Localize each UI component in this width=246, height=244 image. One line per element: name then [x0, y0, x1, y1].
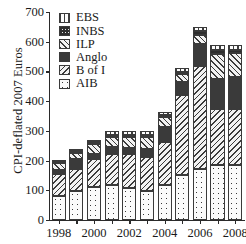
bar-segment-aib: [69, 191, 83, 220]
bar-segment-anglo: [122, 148, 136, 155]
bar-segment-b-of-i: [69, 169, 83, 192]
bar-segment-inbs: [105, 135, 119, 137]
x-tick-label: 2002: [117, 227, 142, 240]
y-tick-label: 300: [25, 125, 44, 138]
bar-segment-aib: [210, 165, 224, 220]
bar-2007: [210, 12, 224, 220]
x-tick: [235, 220, 236, 224]
x-tick-label: 2000: [82, 227, 107, 240]
bar-segment-b-of-i: [210, 109, 224, 166]
y-tick: [46, 131, 50, 132]
bar-segment-anglo: [228, 77, 242, 108]
legend-swatch-solid-dark: [59, 52, 70, 62]
x-tick-label: 2006: [187, 227, 212, 240]
bar-segment-anglo: [69, 159, 83, 169]
bar-2005: [175, 12, 189, 220]
y-tick: [46, 161, 50, 162]
bar-segment-ebs: [52, 160, 66, 162]
bar-segment-anglo: [193, 44, 207, 66]
legend-item-inbs: INBS: [59, 24, 107, 37]
bar-segment-ebs: [69, 149, 83, 151]
bar-segment-anglo: [140, 149, 154, 157]
legend-item-aib: AIB: [59, 77, 107, 90]
bar-segment-ilp: [122, 137, 136, 147]
bar-segment-aib: [87, 187, 101, 220]
x-tick: [129, 220, 130, 224]
y-tick-label: 400: [25, 95, 44, 108]
bar-segment-aib: [140, 191, 154, 220]
bar-segment-ilp: [52, 163, 66, 170]
bar-segment-inbs: [193, 31, 207, 35]
legend-label: INBS: [76, 25, 104, 38]
bar-segment-b-of-i: [105, 154, 119, 185]
bar-segment-ebs: [158, 112, 172, 115]
bar-segment-ilp: [228, 53, 242, 77]
x-tick-label: 2008: [223, 227, 246, 240]
bar-segment-aib: [193, 169, 207, 220]
x-tick: [112, 220, 113, 224]
legend-label: EBS: [76, 11, 99, 24]
y-tick: [46, 12, 50, 13]
legend-swatch-diagonal-hatch-left: [59, 65, 70, 75]
bar-segment-ilp: [87, 144, 101, 154]
x-tick: [59, 220, 60, 224]
x-tick: [218, 220, 219, 224]
bar-segment-ebs: [122, 131, 136, 135]
legend-item-b-of-i: B of I: [59, 64, 107, 77]
y-tick-label: 700: [25, 6, 44, 19]
bar-segment-b-of-i: [122, 154, 136, 188]
bar-segment-ebs: [175, 68, 189, 72]
x-tick: [182, 220, 183, 224]
legend-swatch-checker: [59, 26, 70, 36]
bar-segment-anglo: [105, 147, 119, 154]
y-tick-label: 600: [25, 35, 44, 48]
bar-segment-ilp: [193, 35, 207, 45]
bar-segment-inbs: [228, 50, 242, 53]
x-tick-label: 2004: [152, 227, 177, 240]
bar-segment-aib: [175, 175, 189, 220]
legend-label: B of I: [76, 64, 105, 77]
legend-label: Anglo: [76, 51, 107, 64]
bar-segment-anglo: [158, 127, 172, 142]
y-tick: [46, 42, 50, 43]
y-tick: [46, 101, 50, 102]
bar-segment-aib: [52, 196, 66, 220]
legend-swatch-diagonal-hatch-right: [59, 39, 70, 49]
bar-segment-b-of-i: [87, 159, 101, 187]
bar-2006: [193, 12, 207, 220]
bar-2004: [158, 12, 172, 220]
bar-segment-ilp: [175, 74, 189, 82]
bar-segment-aib: [122, 188, 136, 220]
x-tick: [76, 220, 77, 224]
legend-item-anglo: Anglo: [59, 51, 107, 64]
bar-segment-b-of-i: [175, 95, 189, 176]
bar-segment-inbs: [210, 50, 224, 54]
bar-segment-b-of-i: [52, 174, 66, 196]
x-tick: [200, 220, 201, 224]
y-tick: [46, 220, 50, 221]
bar-2003: [140, 12, 154, 220]
legend-label: AIB: [76, 77, 98, 90]
x-tick: [94, 220, 95, 224]
bar-segment-ebs: [105, 131, 119, 135]
bar-segment-b-of-i: [228, 109, 242, 166]
legend-item-ilp: ILP: [59, 37, 107, 50]
bar-segment-ebs: [140, 131, 154, 135]
bar-segment-aib: [228, 165, 242, 220]
bar-segment-ebs: [87, 140, 101, 142]
bar-2002: [122, 12, 136, 220]
bar-segment-ebs: [210, 45, 224, 50]
y-tick: [46, 190, 50, 191]
bar-segment-ebs: [193, 27, 207, 31]
bar-segment-ilp: [105, 137, 119, 147]
bar-segment-anglo: [87, 154, 101, 159]
stacked-bar-chart: CPI-deflated 2007 Euros 0100200300400500…: [0, 0, 246, 244]
x-tick-label: 1998: [46, 227, 71, 240]
x-tick: [147, 220, 148, 224]
bar-segment-b-of-i: [158, 142, 172, 185]
bar-segment-b-of-i: [140, 157, 154, 191]
bar-segment-inbs: [140, 135, 154, 137]
legend-swatch-vertical-lines: [59, 13, 70, 23]
y-tick-label: 500: [25, 65, 44, 78]
bar-segment-ilp: [210, 54, 224, 79]
